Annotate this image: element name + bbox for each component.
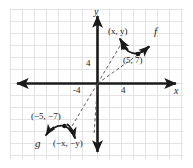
- point-label-neg5-neg7: (−5, −7): [31, 112, 61, 121]
- curve-label-g: g: [35, 138, 41, 149]
- y-axis-label: y: [94, 7, 98, 17]
- graph-figure: y x 4 -4 4 (x, y) (5, 7) (−5, −7) (−x, −…: [0, 0, 193, 168]
- dashed-ray-to-xy: [98, 41, 124, 84]
- marker-n5n7: [62, 124, 67, 129]
- marker-xy: [121, 45, 126, 50]
- point-label-xy: (x, y): [108, 27, 128, 36]
- curve-label-f: f: [154, 26, 157, 37]
- x-tick-label-neg4: -4: [73, 86, 81, 95]
- x-tick-label-4: 4: [121, 86, 126, 95]
- plot-area: y x 4 -4 4 (x, y) (5, 7) (−5, −7) (−x, −…: [10, 9, 183, 159]
- point-label-5-7: (5, 7): [123, 56, 143, 65]
- x-axis-label: x: [174, 86, 178, 96]
- point-label-negx-negy: (−x, −y): [53, 139, 83, 148]
- y-tick-label-4: 4: [86, 59, 91, 68]
- curve-g: [46, 124, 75, 138]
